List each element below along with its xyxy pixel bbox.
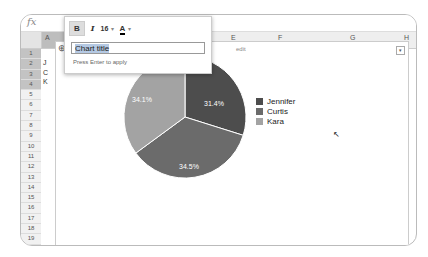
- legend-label: Kara: [267, 117, 284, 126]
- row-header[interactable]: 1: [21, 49, 41, 59]
- row-header[interactable]: 6: [21, 100, 41, 110]
- column-a[interactable]: A: [45, 34, 50, 41]
- chevron-down-icon: ▾: [111, 26, 114, 32]
- column-g[interactable]: G: [350, 34, 355, 41]
- row-header[interactable]: 20: [21, 245, 41, 246]
- slice-label-jennifer: 31.4%: [204, 100, 224, 107]
- slice-label-kara: 34.1%: [132, 96, 152, 103]
- text-color-dropdown[interactable]: A ▾: [120, 24, 131, 33]
- legend-item-kara[interactable]: Kara: [256, 116, 295, 126]
- row-header[interactable]: 8: [21, 121, 41, 131]
- cell-a2[interactable]: J: [43, 58, 55, 67]
- italic-button[interactable]: I: [91, 23, 95, 33]
- legend-item-curtis[interactable]: Curtis: [256, 106, 295, 116]
- font-size-dropdown[interactable]: 16 ▾: [101, 24, 114, 33]
- cell-column-a: J C K: [43, 49, 55, 86]
- legend-swatch-icon: [256, 98, 263, 105]
- column-h[interactable]: H: [404, 34, 409, 41]
- fx-icon: fx: [27, 16, 36, 27]
- row-header[interactable]: 13: [21, 173, 41, 183]
- legend-swatch-icon: [256, 118, 263, 125]
- legend-item-jennifer[interactable]: Jennifer: [256, 96, 295, 106]
- row-header[interactable]: 14: [21, 183, 41, 193]
- column-e[interactable]: E: [231, 34, 236, 41]
- chevron-down-icon: ▾: [128, 26, 131, 32]
- select-all-corner[interactable]: [21, 32, 42, 48]
- row-header[interactable]: 16: [21, 203, 41, 213]
- row-header[interactable]: 15: [21, 193, 41, 203]
- legend-label: Curtis: [267, 107, 288, 116]
- row-header[interactable]: 5: [21, 90, 41, 100]
- text-color-icon: A: [120, 24, 126, 35]
- column-f[interactable]: F: [278, 34, 282, 41]
- row-header[interactable]: 2: [21, 59, 41, 69]
- row-header[interactable]: 7: [21, 111, 41, 121]
- row-header[interactable]: 17: [21, 214, 41, 224]
- slice-label-curtis: 34.5%: [179, 163, 199, 170]
- title-editor-popup: B I 16 ▾ A ▾ Chart title Press Enter to …: [64, 16, 212, 74]
- row-header[interactable]: 12: [21, 162, 41, 172]
- cell-a3[interactable]: C: [43, 68, 55, 77]
- legend-label: Jennifer: [267, 97, 295, 106]
- row-header[interactable]: 3: [21, 70, 41, 80]
- row-header[interactable]: 10: [21, 142, 41, 152]
- apply-hint: Press Enter to apply: [73, 59, 127, 65]
- cell-a4[interactable]: K: [43, 77, 55, 86]
- row-header[interactable]: 18: [21, 224, 41, 234]
- chart-legend: Jennifer Curtis Kara: [256, 96, 295, 126]
- row-header[interactable]: 9: [21, 131, 41, 141]
- row-header[interactable]: 19: [21, 234, 41, 244]
- row-header[interactable]: 11: [21, 152, 41, 162]
- mouse-cursor-icon: ↖: [333, 130, 340, 139]
- row-header[interactable]: 4: [21, 80, 41, 90]
- row-headers: 1 2 3 4 5 6 7 8 9 10 11 12 13 14 15 16 1…: [21, 49, 41, 246]
- selected-title-text: Chart title: [75, 44, 109, 53]
- legend-swatch-icon: [256, 108, 263, 115]
- chart-title-input[interactable]: Chart title: [71, 42, 205, 54]
- bold-button[interactable]: B: [69, 21, 85, 36]
- font-size-value: 16: [101, 25, 109, 32]
- format-toolbar: B I 16 ▾ A ▾: [69, 20, 131, 36]
